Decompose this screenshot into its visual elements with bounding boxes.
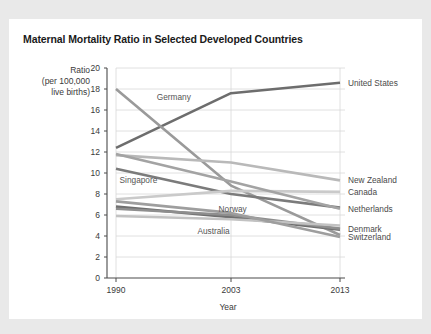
series-end-label: Switzerland bbox=[348, 232, 391, 242]
y-tick-label: 14 bbox=[91, 126, 101, 136]
data-series-lines bbox=[116, 83, 340, 237]
y-tick-label: 4 bbox=[95, 231, 100, 241]
y-tick-label: 18 bbox=[91, 84, 101, 94]
series-line bbox=[116, 191, 340, 199]
series-end-label: United States bbox=[348, 78, 398, 88]
y-tick-label: 20 bbox=[91, 63, 101, 73]
series-inline-label: Australia bbox=[197, 226, 230, 236]
y-axis-title-line: live births) bbox=[51, 87, 90, 97]
y-axis-title-line: Ratio bbox=[70, 65, 90, 75]
chart-plot-area: 02468101214161820 199020032013 United St… bbox=[9, 19, 422, 319]
y-tick-label: 8 bbox=[95, 189, 100, 199]
y-tick-label: 16 bbox=[91, 105, 101, 115]
series-inline-label: Norway bbox=[219, 204, 248, 214]
y-tick-label: 10 bbox=[91, 168, 101, 178]
y-axis-title-line: (per 100,000 bbox=[42, 76, 90, 86]
series-inline-label: Singapore bbox=[120, 175, 158, 185]
figure-card: Maternal Mortality Ratio in Selected Dev… bbox=[9, 19, 422, 319]
x-tick-label: 2003 bbox=[222, 285, 241, 295]
series-line bbox=[116, 83, 340, 148]
x-tick-label: 1990 bbox=[107, 285, 126, 295]
y-tick-label: 12 bbox=[91, 147, 101, 157]
y-tick-label: 0 bbox=[95, 273, 100, 283]
series-end-label: Netherlands bbox=[348, 204, 393, 214]
line-chart: 02468101214161820 199020032013 United St… bbox=[9, 19, 422, 319]
x-axis-title: Year bbox=[219, 302, 236, 312]
gridlines bbox=[116, 68, 345, 278]
series-end-label: Canada bbox=[348, 187, 377, 197]
y-tick-label: 6 bbox=[95, 210, 100, 220]
series-end-labels: United StatesNew ZealandCanadaNetherland… bbox=[348, 78, 398, 242]
series-inline-label: Germany bbox=[157, 92, 192, 102]
x-tick-label: 2013 bbox=[331, 285, 350, 295]
y-tick-label: 2 bbox=[95, 252, 100, 262]
y-axis-tick-labels: 02468101214161820 bbox=[91, 63, 107, 283]
series-end-label: New Zealand bbox=[348, 175, 397, 185]
x-axis-tick-labels: 199020032013 bbox=[107, 278, 350, 295]
